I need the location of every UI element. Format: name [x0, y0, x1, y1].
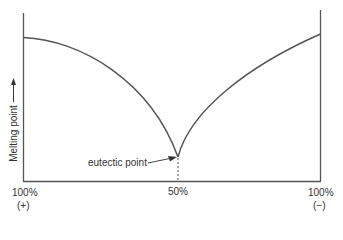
x-label-right-sign: (−) [313, 200, 326, 211]
eutectic-arrow-head-icon [168, 156, 177, 162]
x-label-middle: 50% [168, 186, 188, 197]
x-label-left-sign: (+) [17, 200, 30, 211]
y-axis-arrow-head-icon [11, 78, 16, 85]
y-axis-label: Melting point [8, 99, 19, 169]
eutectic-point-label: eutectic point [88, 157, 147, 168]
left-liquidus-curve [24, 38, 179, 158]
right-liquidus-curve [178, 34, 321, 157]
x-label-right: 100% [308, 187, 334, 198]
eutectic-arrow-shaft [148, 158, 172, 163]
x-label-left: 100% [12, 187, 38, 198]
